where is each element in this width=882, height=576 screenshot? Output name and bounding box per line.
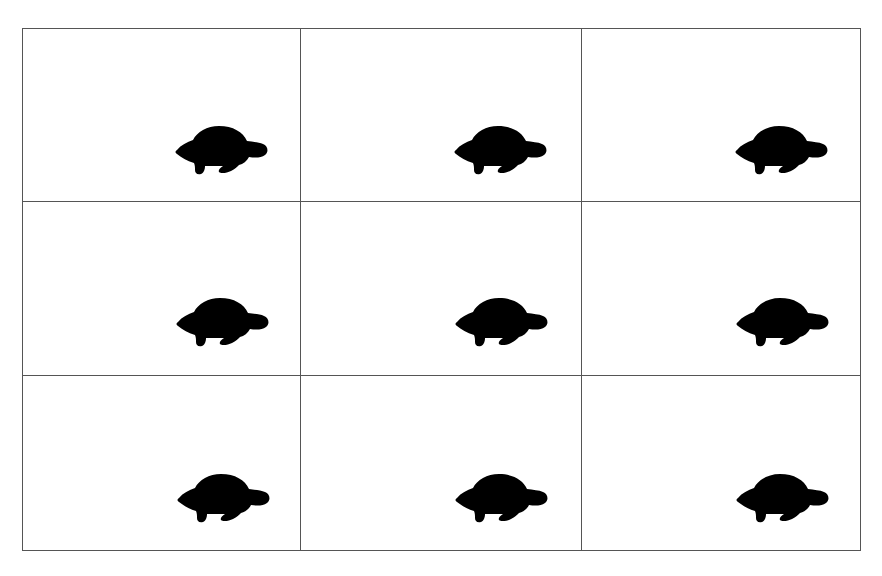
turtle-icon — [173, 123, 269, 179]
grid-cell-r0-c2[interactable] — [582, 29, 861, 201]
turtle-icon — [734, 295, 830, 351]
turtle-icon — [452, 123, 548, 179]
turtle-icon — [175, 471, 271, 527]
grid-cell-r1-c1[interactable] — [301, 202, 581, 375]
grid-cell-r0-c0[interactable] — [23, 29, 300, 201]
turtle-icon — [453, 295, 549, 351]
grid-cell-r1-c0[interactable] — [23, 202, 300, 375]
grid-cell-r2-c1[interactable] — [301, 376, 581, 551]
grid-cell-r2-c0[interactable] — [23, 376, 300, 551]
grid-cell-r0-c1[interactable] — [301, 29, 581, 201]
turtle-icon — [453, 471, 549, 527]
turtle-grid — [22, 28, 861, 551]
grid-cell-r2-c2[interactable] — [582, 376, 861, 551]
turtle-icon — [733, 123, 829, 179]
turtle-icon — [174, 295, 270, 351]
turtle-icon — [734, 471, 830, 527]
grid-cell-r1-c2[interactable] — [582, 202, 861, 375]
image-grid-stage — [0, 0, 882, 576]
